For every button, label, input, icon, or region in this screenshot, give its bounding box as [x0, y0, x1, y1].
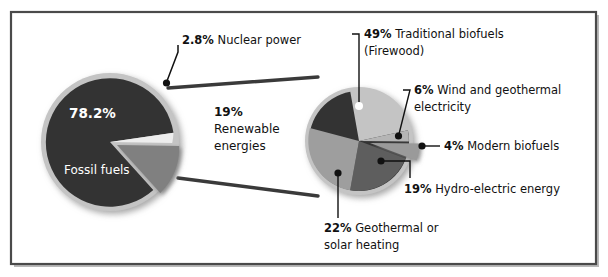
label-nuclear: 2.8% Nuclear power [182, 33, 301, 47]
label-hydro-pct: 19% [404, 182, 432, 196]
label-wind-pct: 6% [414, 83, 434, 97]
label-nuclear-name: Nuclear power [218, 33, 302, 47]
label-nuclear-pct: 2.8% [182, 33, 214, 47]
label-renewable-pct: 19% [214, 105, 243, 119]
modern-leader-dot [418, 142, 425, 149]
label-geothermal-line2: solar heating [324, 238, 399, 252]
label-traditional-line1: 49% Traditional biofuels [364, 27, 504, 41]
left-pie-fossil-pct: 78.2% [69, 105, 116, 121]
label-renewable-name-line1: Renewable [214, 122, 280, 136]
label-modern: 4% Modern biofuels [444, 139, 559, 153]
label-renewable-name-line2: energies [214, 139, 266, 153]
label-traditional-pct: 49% [364, 27, 392, 41]
label-wind-line1: 6% Wind and geothermal [414, 83, 561, 97]
label-hydro: 19% Hydro-electric energy [404, 182, 560, 196]
label-wind-name: Wind and geothermal [437, 83, 561, 97]
traditional-leader-dot [355, 102, 363, 110]
label-wind-line2: electricity [414, 100, 471, 114]
label-traditional-name: Traditional biofuels [394, 27, 504, 41]
label-traditional-line2: (Firewood) [364, 44, 424, 58]
wind-leader-dot [395, 132, 402, 139]
label-geothermal-pct: 22% [324, 221, 352, 235]
left-pie-fossil-name: Fossil fuels [64, 163, 130, 177]
geothermal-leader-dot [334, 169, 341, 176]
energy-pie-chart-figure: 78.2% Fossil fuels 2.8% Nuclear power 19… [0, 0, 608, 277]
nuclear-leader-dot [163, 79, 170, 86]
left-pie-chart: 78.2% Fossil fuels [41, 73, 179, 211]
label-modern-pct: 4% [444, 139, 464, 153]
label-modern-name: Modern biofuels [467, 139, 559, 153]
hydro-leader-dot [377, 157, 384, 164]
label-hydro-name: Hydro-electric energy [435, 182, 560, 196]
label-geothermal-name: Geothermal or [355, 221, 439, 235]
label-geothermal-line1: 22% Geothermal or [324, 221, 439, 235]
